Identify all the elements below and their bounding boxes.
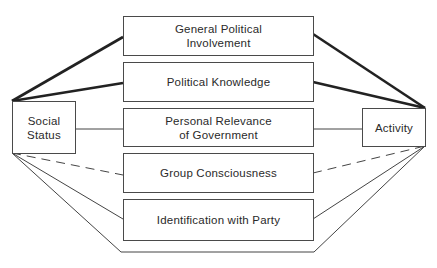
link-political-knowledge-activity [313, 82, 425, 108]
node-label: Identification with Party [157, 213, 280, 227]
node-label: General Political Involvement [175, 22, 262, 50]
node-label: Activity [375, 121, 413, 135]
node-activity: Activity [362, 108, 426, 147]
node-label: Social Status [27, 114, 61, 142]
node-personal-relevance-of-government: Personal Relevance of Government [123, 108, 314, 147]
node-identification-with-party: Identification with Party [123, 199, 314, 241]
node-label: Political Knowledge [167, 75, 271, 89]
node-political-knowledge: Political Knowledge [123, 62, 314, 102]
link-general-involvement-activity [313, 34, 425, 108]
node-general-political-involvement: General Political Involvement [123, 16, 314, 56]
node-label: Group Consciousness [160, 166, 277, 180]
link-group-consciousness-activity [313, 146, 425, 173]
node-social-status: Social Status [12, 101, 76, 154]
link-status-identification [12, 153, 123, 219]
link-status-group-consciousness [12, 153, 123, 175]
node-label: Personal Relevance of Government [165, 114, 272, 142]
node-group-consciousness: Group Consciousness [123, 153, 314, 193]
link-identification-activity [313, 146, 425, 219]
